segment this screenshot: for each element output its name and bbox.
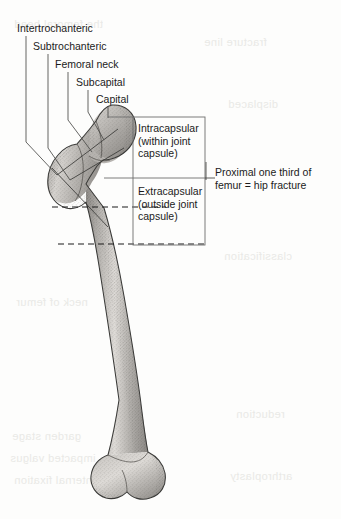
label-intracapsular: Intracapsular (within joint capsule): [138, 122, 199, 160]
label-subtrochanteric: Subtrochanteric: [33, 40, 107, 53]
label-capital: Capital: [96, 93, 129, 106]
label-extracapsular: Extracapsular (outside joint capsule): [138, 185, 202, 223]
right-callout-connector: [205, 162, 215, 180]
label-femoral-neck: Femoral neck: [55, 58, 119, 71]
label-intertrochanteric: Intertrochanteric: [17, 22, 93, 35]
femur-illustration: [0, 0, 341, 519]
label-proximal-third-hip-fracture: Proximal one third of femur = hip fractu…: [215, 166, 311, 191]
label-subcapital: Subcapital: [76, 76, 125, 89]
figure-canvas: the femoral headfracture linedisplacedne…: [0, 0, 341, 519]
